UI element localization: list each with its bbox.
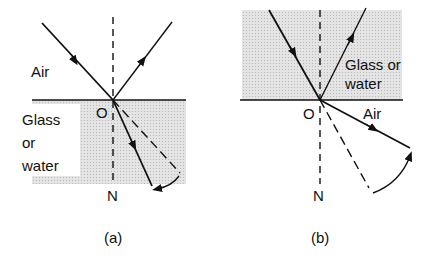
- label-point-o: O: [303, 105, 315, 122]
- panel-b: Glass or water Air O N (b): [240, 8, 410, 246]
- arrow-icon: [138, 60, 143, 67]
- label-air: Air: [363, 105, 381, 122]
- label-point-o: O: [96, 104, 108, 121]
- label-normal-n: N: [313, 187, 324, 204]
- incident-ray: [42, 23, 113, 100]
- caption-b: (b): [311, 229, 329, 246]
- label-or: or: [22, 134, 35, 151]
- label-glass: Glass: [22, 111, 60, 128]
- label-water: water: [344, 75, 382, 92]
- deviation-arrow-icon: [373, 156, 410, 193]
- panel-a: Air Glass or water O N (a): [20, 17, 186, 246]
- label-glass-or: Glass or: [345, 56, 401, 73]
- arrow-icon: [366, 124, 374, 129]
- label-normal-n: N: [107, 187, 118, 204]
- caption-a: (a): [104, 229, 122, 246]
- label-air: Air: [31, 63, 49, 80]
- label-water: water: [21, 157, 59, 174]
- refraction-diagram: Air Glass or water O N (a) Glass or wate…: [0, 0, 432, 262]
